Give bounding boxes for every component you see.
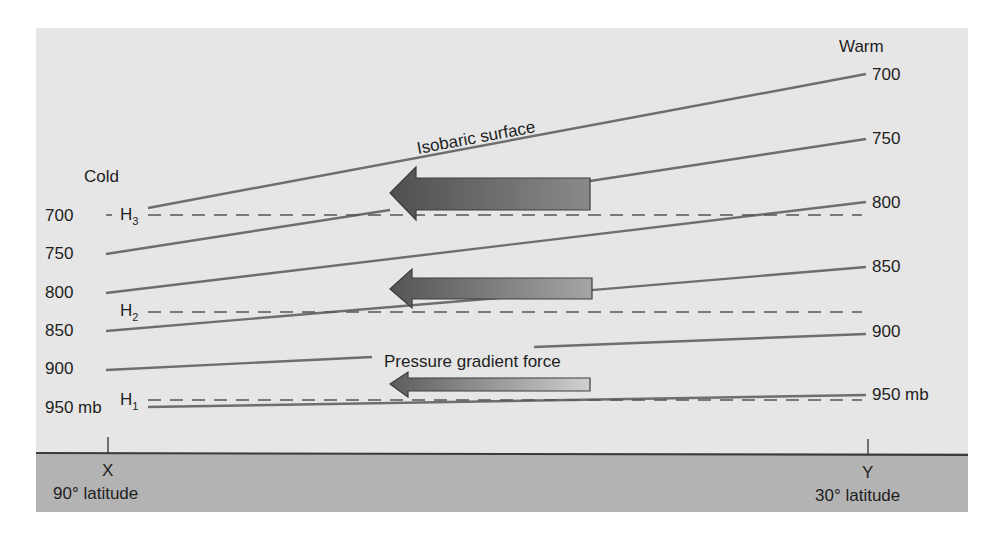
right-pressure-label: 700 bbox=[872, 65, 900, 84]
right-pressure-label: 900 bbox=[872, 322, 900, 341]
left-pressure-label: 900 bbox=[45, 359, 73, 378]
cold-label: Cold bbox=[84, 167, 119, 186]
right-pressure-label: 950 mb bbox=[872, 385, 929, 404]
left-pressure-label: 700 bbox=[45, 206, 73, 225]
pressure-gradient-diagram: Isobaric surface Pressure gradient force… bbox=[0, 0, 1006, 543]
left-pressure-label: 750 bbox=[45, 244, 73, 263]
latitude-y-label: 30° latitude bbox=[815, 486, 900, 505]
right-pressure-label: 850 bbox=[872, 257, 900, 276]
pressure-gradient-force-label: Pressure gradient force bbox=[384, 352, 561, 371]
point-y-label: Y bbox=[862, 463, 873, 482]
left-pressure-label: 800 bbox=[45, 283, 73, 302]
warm-label: Warm bbox=[839, 37, 884, 56]
left-pressure-label: 850 bbox=[45, 321, 73, 340]
point-x-label: X bbox=[102, 461, 113, 480]
right-pressure-label: 800 bbox=[872, 193, 900, 212]
left-pressure-label: 950 mb bbox=[45, 398, 102, 417]
right-pressure-label: 750 bbox=[872, 129, 900, 148]
latitude-x-label: 90° latitude bbox=[53, 484, 138, 503]
